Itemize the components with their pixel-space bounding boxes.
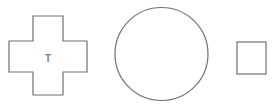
diagram-canvas: T — [0, 0, 275, 108]
cross-label: T — [45, 53, 51, 64]
cross-shape[interactable]: T — [9, 16, 87, 95]
circle-shape[interactable] — [115, 8, 208, 101]
square-shape[interactable] — [237, 42, 266, 74]
